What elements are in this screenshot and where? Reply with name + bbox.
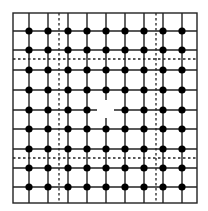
grid-node (44, 27, 51, 34)
grid-node (159, 145, 166, 152)
grid-node (25, 106, 32, 113)
grid-node (83, 125, 90, 132)
grid-node (25, 86, 32, 93)
grid-node (25, 125, 32, 132)
grid-node (121, 86, 128, 93)
grid-node (159, 66, 166, 73)
dashed-partition-lines (13, 13, 197, 203)
grid-node (64, 66, 71, 73)
grid-node (44, 183, 51, 190)
grid-node (140, 125, 147, 132)
grid-node (178, 66, 185, 73)
grid-node (64, 183, 71, 190)
grid-node (140, 183, 147, 190)
grid-node (102, 164, 109, 171)
grid-node (121, 164, 128, 171)
grid-node (140, 46, 147, 53)
grid-node (44, 106, 51, 113)
grid-node (44, 145, 51, 152)
grid-node (25, 66, 32, 73)
grid-node (25, 27, 32, 34)
grid-node (121, 27, 128, 34)
grid-node (83, 106, 90, 113)
grid-node (159, 86, 166, 93)
grid-node (83, 27, 90, 34)
grid-graph-diagram (0, 0, 208, 211)
grid-node (102, 145, 109, 152)
grid-node (83, 66, 90, 73)
grid-node (102, 183, 109, 190)
grid-node (44, 86, 51, 93)
grid-node (159, 46, 166, 53)
grid-node (83, 183, 90, 190)
grid-node (159, 27, 166, 34)
grid-node (64, 106, 71, 113)
grid-border (13, 13, 197, 203)
grid-node (102, 46, 109, 53)
grid-edges (13, 13, 197, 203)
grid-node (44, 164, 51, 171)
grid-node (64, 46, 71, 53)
grid-node (64, 125, 71, 132)
grid-node (44, 46, 51, 53)
grid-node (64, 164, 71, 171)
grid-node (102, 66, 109, 73)
grid-node (159, 164, 166, 171)
grid-node (121, 66, 128, 73)
grid-node (83, 86, 90, 93)
grid-node (44, 125, 51, 132)
grid-node (102, 86, 109, 93)
grid-node (178, 106, 185, 113)
grid-node (121, 145, 128, 152)
grid-node (140, 86, 147, 93)
grid-node (44, 66, 51, 73)
grid-node (83, 164, 90, 171)
grid-node (140, 145, 147, 152)
grid-node (140, 106, 147, 113)
grid-node (178, 145, 185, 152)
grid-node (64, 145, 71, 152)
grid-node (25, 164, 32, 171)
grid-node (83, 145, 90, 152)
grid-node (25, 46, 32, 53)
grid-node (121, 46, 128, 53)
grid-node (178, 183, 185, 190)
grid-node (159, 183, 166, 190)
grid-node (121, 125, 128, 132)
grid-node (159, 125, 166, 132)
grid-node (121, 183, 128, 190)
grid-node (178, 46, 185, 53)
grid-node (140, 164, 147, 171)
grid-node (102, 125, 109, 132)
grid-nodes (25, 27, 185, 190)
grid-node (159, 106, 166, 113)
grid-node (64, 86, 71, 93)
grid-node (25, 145, 32, 152)
grid-node (64, 27, 71, 34)
grid-node (83, 46, 90, 53)
grid-node (140, 66, 147, 73)
grid-node (178, 164, 185, 171)
grid-node (25, 183, 32, 190)
grid-node (178, 27, 185, 34)
grid-node (140, 27, 147, 34)
grid-node (178, 125, 185, 132)
grid-node (102, 27, 109, 34)
grid-node (121, 106, 128, 113)
grid-node (178, 86, 185, 93)
